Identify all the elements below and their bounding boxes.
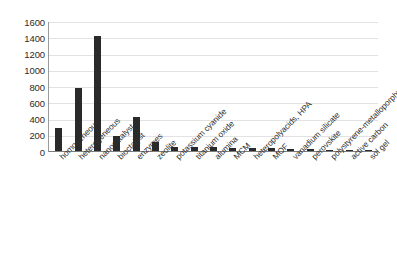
y-axis-tick-label: 1600 xyxy=(1,18,45,28)
y-axis-tick-labels: 02004006008001000120014001600 xyxy=(0,22,45,152)
x-axis-category-label: active carbon xyxy=(349,155,355,161)
x-axis-category-label: sol gel xyxy=(368,155,374,161)
x-axis-category-label: perovskite xyxy=(310,155,316,161)
x-axis-category-label: vanadium silicate xyxy=(291,155,297,161)
bar xyxy=(55,128,62,151)
x-axis-category-label: homogeneous xyxy=(58,155,64,161)
y-axis-tick-label: 1000 xyxy=(1,66,45,76)
x-axis-category-label: MCM xyxy=(232,155,238,161)
y-axis-tick-label: 400 xyxy=(1,115,45,125)
bar-slot xyxy=(165,22,184,151)
y-axis-tick-label: 1400 xyxy=(1,34,45,44)
x-axis-category-labels: homogeneousheterogeneousnanocatalystbioc… xyxy=(48,153,378,271)
x-axis-category-label: heterogeneous xyxy=(77,155,83,161)
x-axis-category-label: alumina xyxy=(213,155,219,161)
x-axis-category-label: titanium oxide xyxy=(194,155,200,161)
y-axis-tick-label: 600 xyxy=(1,99,45,109)
y-axis-tick-label: 200 xyxy=(1,131,45,141)
bar-slot xyxy=(243,22,262,151)
x-axis-category-label: heteropolyacids, HPA xyxy=(252,155,258,161)
y-axis-tick-label: 800 xyxy=(1,83,45,93)
y-axis-tick-label: 1200 xyxy=(1,50,45,60)
y-axis-tick-label: 0 xyxy=(1,148,45,158)
x-axis-category-label: polystyrene-metalloporphyrins xyxy=(329,155,335,161)
x-axis-category-label: zeolite xyxy=(155,155,161,161)
x-axis-category-label: bioctalyst xyxy=(116,155,122,161)
chart-page: 02004006008001000120014001600 homogeneou… xyxy=(0,0,397,273)
x-axis-category-label: MOF xyxy=(271,155,277,161)
x-axis-category-label: nanocatalyst xyxy=(97,155,103,161)
x-axis-category-label: enzymes xyxy=(135,155,141,161)
x-axis-category-label: potassium cyanide xyxy=(174,155,180,161)
bar-slot xyxy=(49,22,68,151)
